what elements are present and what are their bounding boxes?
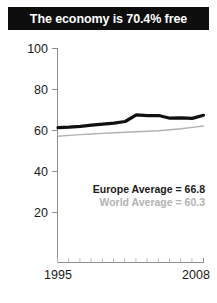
x-tick-label-1995: 1995 xyxy=(44,268,72,282)
series-country-line xyxy=(58,115,204,128)
annotation-world-average: World Average = 60.3 xyxy=(99,196,205,208)
chart-title-banner: The economy is 70.4% free xyxy=(8,7,209,30)
y-axis-ticks xyxy=(52,49,58,213)
chart-figure: The economy is 70.4% free 100 80 60 40 xyxy=(0,0,217,303)
y-tick-label-60: 60 xyxy=(34,124,48,138)
line-chart-svg: 100 80 60 40 20 xyxy=(0,30,217,303)
annotation-europe-average: Europe Average = 66.8 xyxy=(93,183,205,195)
y-tick-label-80: 80 xyxy=(34,83,48,97)
y-tick-label-20: 20 xyxy=(34,206,48,220)
x-tick-label-2008: 2008 xyxy=(182,268,210,282)
y-tick-label-40: 40 xyxy=(34,165,48,179)
page-title: The economy is 70.4% free xyxy=(30,12,187,26)
x-axis-labels: 1995 2008 xyxy=(44,268,210,282)
plot-area: 100 80 60 40 20 xyxy=(0,30,217,303)
y-axis-labels: 100 80 60 40 20 xyxy=(27,42,48,220)
y-tick-label-100: 100 xyxy=(27,42,48,56)
x-axis-ticks xyxy=(58,258,204,263)
